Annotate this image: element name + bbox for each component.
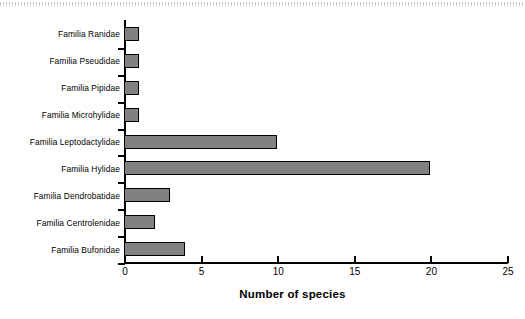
- bar-row: [124, 155, 507, 182]
- bar-row: [124, 129, 507, 156]
- bar-row: [124, 102, 507, 129]
- x-axis-tick-label: 15: [335, 266, 375, 278]
- bar-row: [124, 182, 507, 209]
- y-axis-tick: [118, 263, 125, 265]
- x-axis-tick: [430, 256, 432, 263]
- category-label: Familia Leptodactylidae: [2, 137, 120, 147]
- category-label: Familia Dendrobatidae: [2, 191, 120, 201]
- x-axis-tick: [201, 256, 203, 263]
- category-label: Familia Centrolenidae: [2, 218, 120, 228]
- bar: [124, 135, 277, 149]
- x-axis-tick-label: 0: [105, 266, 145, 278]
- category-label: Familia Pipidae: [2, 83, 120, 93]
- bar: [124, 81, 139, 95]
- bar-row: [124, 236, 507, 263]
- bar: [124, 242, 185, 256]
- bar: [124, 27, 139, 41]
- bar: [124, 215, 155, 229]
- scan-artifact-line-secondary: [0, 5, 525, 7]
- bar-row: [124, 48, 507, 75]
- x-axis-tick: [507, 256, 509, 263]
- bar: [124, 54, 139, 68]
- bar: [124, 161, 430, 175]
- bar: [124, 188, 170, 202]
- plot-area: [124, 21, 507, 263]
- category-label: Familia Pseudidae: [2, 56, 120, 66]
- bar-row: [124, 21, 507, 48]
- x-axis-title: Number of species: [0, 288, 525, 300]
- category-label: Familia Hylidae: [2, 164, 120, 174]
- bar-chart: Familia RanidaeFamilia PseudidaeFamilia …: [0, 0, 525, 319]
- bar: [124, 108, 139, 122]
- x-axis-tick: [277, 256, 279, 263]
- x-axis-tick-label: 5: [182, 266, 222, 278]
- category-label: Familia Ranidae: [2, 29, 120, 39]
- x-axis-tick: [124, 256, 126, 263]
- category-label: Familia Bufonidae: [2, 245, 120, 255]
- x-axis-tick-label: 20: [411, 266, 451, 278]
- bar-row: [124, 75, 507, 102]
- x-axis-tick-label: 10: [258, 266, 298, 278]
- x-axis-tick-label: 25: [488, 266, 525, 278]
- bar-row: [124, 209, 507, 236]
- category-label: Familia Microhylidae: [2, 110, 120, 120]
- x-axis-tick: [354, 256, 356, 263]
